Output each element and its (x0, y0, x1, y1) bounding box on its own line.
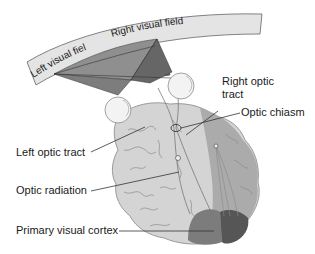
primary-visual-cortex-right (220, 210, 248, 244)
right-optic-tract-label-line1: Right optic (222, 75, 274, 88)
visual-pathway-diagram: Left visual field Right visual field (0, 0, 315, 254)
brain (112, 82, 259, 245)
primary-visual-cortex-label: Primary visual cortex (16, 224, 118, 237)
left-eye (105, 97, 131, 123)
left-optic-tract-label: Left optic tract (16, 146, 85, 159)
right-eye (168, 73, 194, 99)
lgn-marker (176, 156, 181, 161)
optic-chiasm-label: Optic chiasm (241, 106, 305, 119)
optic-radiation-label: Optic radiation (16, 184, 87, 197)
right-lgn-marker (214, 144, 218, 148)
right-optic-tract-label-line2: tract (222, 88, 243, 101)
